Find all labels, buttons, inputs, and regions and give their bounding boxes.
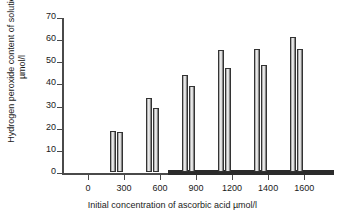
x-axis-tick-label: 1400 (258, 183, 278, 193)
y-axis-tick-label: 0 (51, 166, 56, 176)
y-axis-title: Hydrogen peroxide content of solution µm… (6, 0, 36, 152)
x-axis-tick-mark (88, 175, 89, 180)
y-axis-tick-mark (57, 129, 63, 130)
x-axis-tick-mark (196, 175, 197, 180)
y-axis-tick-mark (57, 173, 63, 174)
y-axis-tick-label: 30 (46, 100, 56, 110)
y-axis-tick-label: 50 (46, 55, 56, 65)
bar (153, 108, 159, 172)
y-axis-tick-label: 10 (46, 144, 56, 154)
y-axis-tick: 0 (62, 173, 68, 174)
bar (290, 37, 296, 172)
bar (146, 98, 152, 172)
x-axis-tick-mark (232, 175, 233, 180)
y-axis-tick: 60 (62, 40, 68, 41)
y-axis-tick-mark (57, 18, 63, 19)
y-axis-tick-label: 60 (46, 33, 56, 43)
y-axis-tick-mark (57, 107, 63, 108)
y-axis-tick-label: 70 (46, 11, 56, 21)
y-axis-tick: 20 (62, 129, 68, 130)
x-axis-tick-mark (268, 175, 269, 180)
bar (218, 50, 224, 172)
bar (225, 68, 231, 172)
y-axis-tick: 40 (62, 84, 68, 85)
y-axis-tick-mark (57, 40, 63, 41)
y-axis-tick: 50 (62, 62, 68, 63)
bar (182, 75, 188, 172)
y-axis-tick: 30 (62, 107, 68, 108)
x-axis-tick-label: 900 (189, 183, 204, 193)
x-axis-tick-label: 300 (117, 183, 132, 193)
y-axis-tick-label: 40 (46, 77, 56, 87)
bar (189, 86, 195, 172)
y-axis-title-line-1: Hydrogen peroxide content of solution (6, 0, 17, 152)
bar (254, 49, 260, 172)
x-axis-tick-mark (304, 175, 305, 180)
bar (117, 132, 123, 172)
chart-figure: Hydrogen peroxide content of solution µm… (0, 0, 345, 224)
x-axis-tick-mark (124, 175, 125, 180)
x-axis-tick-label: 600 (153, 183, 168, 193)
bar (261, 65, 267, 172)
x-axis-tick-label: 1600 (294, 183, 314, 193)
y-axis-tick-label: 20 (46, 122, 56, 132)
y-axis-tick-mark (57, 84, 63, 85)
x-axis-tick-label: 0 (85, 183, 90, 193)
y-axis-tick-mark (57, 62, 63, 63)
x-axis-tick-label: 1200 (222, 183, 242, 193)
y-axis-title-line-2: µmol/l (17, 0, 28, 152)
bar (297, 49, 303, 172)
bar (110, 131, 116, 172)
plot-area: 010203040506070 0300600900120014001600 (62, 18, 334, 174)
y-axis-tick-mark (57, 151, 63, 152)
x-axis-tick-mark (160, 175, 161, 180)
y-axis-tick: 10 (62, 151, 68, 152)
y-axis-tick: 70 (62, 18, 68, 19)
x-axis-title: Initial concentration of ascorbic acid µ… (0, 200, 345, 210)
